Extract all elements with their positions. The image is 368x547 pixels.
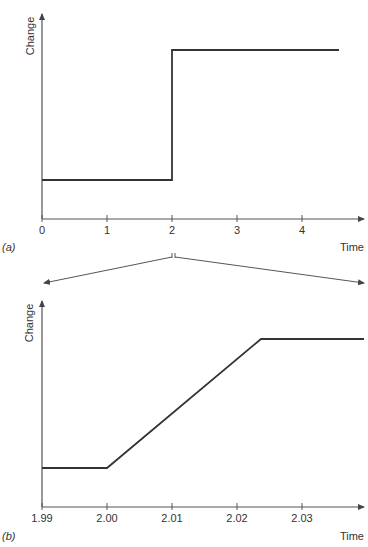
- x-tick-label: 4: [299, 224, 305, 236]
- x-tick-label: 2.03: [291, 512, 312, 524]
- y-axis-label-a: Change: [24, 17, 36, 56]
- x-tick-label: 0: [39, 224, 45, 236]
- x-tick-label: 1.99: [31, 512, 52, 524]
- panel-label-b: (b): [2, 530, 16, 542]
- x-tick-label: 2.02: [226, 512, 247, 524]
- x-tick-label: 1: [104, 224, 110, 236]
- zoom-bracket: [44, 253, 364, 283]
- panel-label-a: (a): [2, 241, 16, 253]
- ramp-line: [42, 339, 364, 468]
- x-tick-label: 2: [169, 224, 175, 236]
- x-axis-label-b: Time: [340, 530, 364, 542]
- step-line: [42, 50, 339, 180]
- x-ticks-b: 1.99 2.00 2.01 2.02 2.03: [31, 503, 312, 524]
- x-tick-label: 2.00: [96, 512, 117, 524]
- x-tick-label: 2.01: [161, 512, 182, 524]
- chart-a: Change 0 1 2 3 4 Time (a): [2, 14, 364, 253]
- x-tick-label: 3: [234, 224, 240, 236]
- chart-b: Change 1.99 2.00 2.01 2.02 2.03 Time (b): [2, 301, 364, 542]
- x-ticks-a: 0 1 2 3 4: [39, 215, 305, 236]
- figure: Change 0 1 2 3 4 Time (a) Change: [0, 0, 368, 547]
- x-axis-label-a: Time: [340, 241, 364, 253]
- y-axis-label-b: Change: [23, 304, 35, 343]
